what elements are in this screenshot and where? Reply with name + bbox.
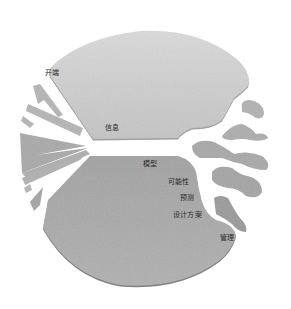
blob-2 [222,124,268,141]
label-yuce: 预测 [180,194,194,202]
fragment-7 [24,184,32,193]
fragment-8 [30,187,43,211]
label-guanli: 管理 [220,234,234,242]
blob-1 [242,100,264,118]
label-kaiduan: 开端 [45,69,59,77]
fragment-3 [21,116,34,128]
label-xinxi: 信息 [105,124,119,132]
label-shejifangan: 设计方案 [173,211,202,219]
lower-region [43,156,236,287]
label-moxing: 模型 [143,160,157,168]
diagram-canvas [0,0,291,309]
upper-region [50,31,249,141]
blob-3 [192,141,268,170]
label-kenengxing: 可能性 [168,178,190,186]
blob-4 [212,167,262,198]
